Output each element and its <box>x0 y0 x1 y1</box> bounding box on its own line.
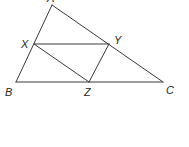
label-b: B <box>5 86 12 98</box>
label-a: A <box>46 0 54 4</box>
segment-yz <box>89 44 109 82</box>
label-y: Y <box>114 34 122 46</box>
segment-xz <box>34 44 89 82</box>
label-z: Z <box>83 86 92 98</box>
triangle-diagram: A X Y B Z C <box>0 0 189 147</box>
label-c: C <box>166 84 174 96</box>
label-x: X <box>20 38 29 50</box>
